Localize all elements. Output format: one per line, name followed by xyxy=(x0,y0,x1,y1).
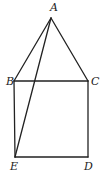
label-E: E xyxy=(9,160,18,173)
label-A: A xyxy=(49,1,58,14)
segment-AE xyxy=(15,18,51,157)
segment-AB xyxy=(14,18,51,81)
label-C: C xyxy=(91,75,100,88)
geometry-figure: A B C D E xyxy=(0,0,102,173)
label-D: D xyxy=(83,160,93,173)
segments xyxy=(14,18,88,157)
vertex-labels: A B C D E xyxy=(5,1,100,173)
segment-AC xyxy=(51,18,88,81)
segment-BE xyxy=(14,81,15,157)
label-B: B xyxy=(5,75,14,88)
